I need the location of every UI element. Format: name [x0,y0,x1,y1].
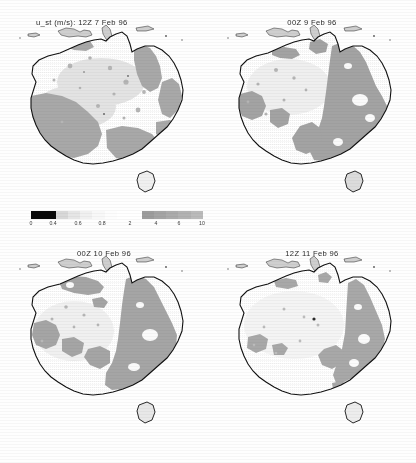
colorbar-segment [129,211,141,219]
panel-3-map [6,253,202,439]
colorbar-segment [166,211,178,219]
colorbar-tick: 0.8 [98,220,105,226]
tasmania-4 [345,402,363,423]
northern-islands-4 [236,256,362,273]
panel-2-map [214,22,410,208]
panel-1-map [6,22,202,208]
colorbar-tick: 2 [129,220,132,226]
map-panel-1: u_st (m/s): 12Z 7 Feb 96 [0,0,208,232]
australia-map-svg-1 [6,22,202,208]
colorbar-segment [68,211,80,219]
colorbar-tick: 0.6 [74,220,81,226]
colorbar-tick-labels: 0 0.4 0.6 0.8 2 4 6 10 [26,220,208,229]
colorbar-segment [105,211,117,219]
colorbar-segment [56,211,68,219]
map-panel-4: 12Z 11 Feb 96 [208,231,416,463]
australia-map-svg-3 [6,253,202,439]
mainland-fill-2 [214,22,410,208]
australia-map-svg-4 [214,253,410,439]
figure-canvas: u_st (m/s): 12Z 7 Feb 96 [0,0,416,463]
northern-islands-2 [236,25,362,42]
northern-islands-3 [28,256,154,273]
colorbar-segment [154,211,166,219]
australia-map-svg-2 [214,22,410,208]
panel-4-map [214,253,410,439]
colorbar-tick: 0.4 [49,220,56,226]
colorbar-segment [92,211,104,219]
map-panel-2: 00Z 9 Feb 96 [208,0,416,232]
colorbar-segment [31,211,43,219]
tasmania-3 [137,402,155,423]
colorbar [31,211,203,219]
colorbar-segment [191,211,203,219]
colorbar-tick: 10 [199,220,205,226]
mainland-fill-3 [6,253,202,439]
colorbar-segment [142,211,154,219]
colorbar-tick: 6 [178,220,181,226]
northern-islands-1 [28,25,154,42]
colorbar-segment [117,211,129,219]
map-panel-3: 00Z 10 Feb 96 [0,231,208,463]
tasmania-2 [345,171,363,192]
colorbar-tick: 4 [155,220,158,226]
colorbar-segment [178,211,190,219]
colorbar-segment [43,211,55,219]
tasmania-1 [137,171,155,192]
colorbar-tick: 0 [30,220,33,226]
colorbar-segment [80,211,92,219]
mainland-fill-4 [214,253,410,439]
mainland-fill-1 [6,22,202,208]
